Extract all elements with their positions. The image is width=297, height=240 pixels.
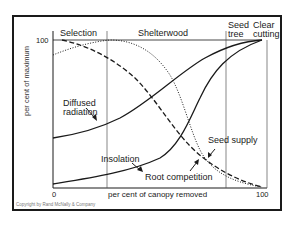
x-tick-100: 100 — [256, 191, 269, 199]
diffused-radiation-curve — [53, 40, 262, 138]
label-seed-supply: Seed supply — [208, 135, 258, 145]
region-label-tree: tree — [228, 29, 244, 39]
label-radiation: radiation — [63, 107, 98, 117]
label-root-competition: Root competition — [145, 172, 213, 182]
label-insolation: Insolation — [101, 154, 140, 164]
region-label-shelterwood: Shelterwood — [138, 28, 188, 38]
region-label-selection: Selection — [60, 28, 97, 38]
x-axis-label: per cent of canopy removed — [108, 190, 207, 200]
region-label-cutting: cutting — [253, 29, 280, 39]
y-tick-100: 100 — [36, 37, 49, 45]
copyright-text: Copyright by Rand McNally & Company — [16, 202, 95, 207]
y-axis-label: per cent of maximum — [22, 46, 31, 116]
x-tick-0: 0 — [52, 191, 56, 199]
